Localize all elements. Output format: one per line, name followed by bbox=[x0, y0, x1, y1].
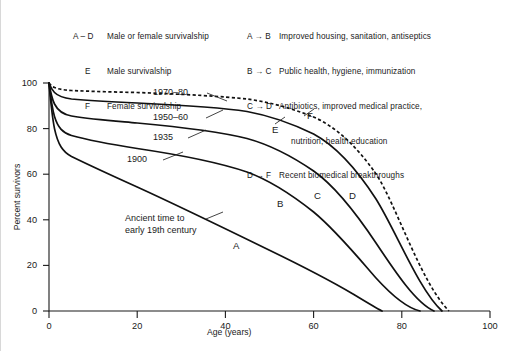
curve-label-b: B bbox=[277, 198, 283, 209]
x-axis-ticks bbox=[49, 311, 490, 318]
annotation-1935: 1935 bbox=[153, 132, 173, 142]
curve-label-d: D bbox=[349, 190, 356, 201]
curve-f-1970-80-female bbox=[49, 83, 449, 311]
curve-label-f: F bbox=[307, 110, 313, 121]
y-axis-title: Percent survivors bbox=[12, 152, 22, 242]
x-tick-label-80: 80 bbox=[397, 321, 407, 331]
curve-label-e: E bbox=[272, 124, 278, 135]
annotation-1950-60: 1950–60 bbox=[153, 112, 188, 122]
x-axis-title: Age (years) bbox=[207, 327, 251, 337]
y-axis-ticks bbox=[43, 83, 49, 311]
plot-area bbox=[1, 0, 509, 351]
curve-c-1935 bbox=[49, 83, 434, 311]
curve-d-e-1950-60-male bbox=[49, 83, 442, 311]
y-tick-label-80: 80 bbox=[15, 124, 37, 134]
annotation-1970-80: 1970–80 bbox=[153, 87, 188, 97]
x-tick-label-100: 100 bbox=[482, 321, 497, 331]
y-tick-label-20: 20 bbox=[15, 260, 37, 270]
y-tick-label-100: 100 bbox=[15, 78, 37, 88]
annotation-1900: 1900 bbox=[127, 154, 147, 164]
curve-label-c: C bbox=[314, 190, 321, 201]
curve-a-ancient bbox=[49, 83, 382, 311]
x-tick-label-20: 20 bbox=[132, 321, 142, 331]
x-tick-label-60: 60 bbox=[308, 321, 318, 331]
annotation-ancient-time-line1: Ancient time to bbox=[125, 213, 185, 223]
curve-label-a: A bbox=[233, 240, 239, 251]
survivorship-curve-figure: A – D Male or female survivalship E Male… bbox=[0, 0, 509, 351]
y-tick-label-0: 0 bbox=[15, 306, 37, 316]
x-tick-label-0: 0 bbox=[46, 321, 51, 331]
curve-b-1900 bbox=[49, 83, 420, 311]
annotation-ancient-time-line2: early 19th century bbox=[125, 225, 197, 235]
